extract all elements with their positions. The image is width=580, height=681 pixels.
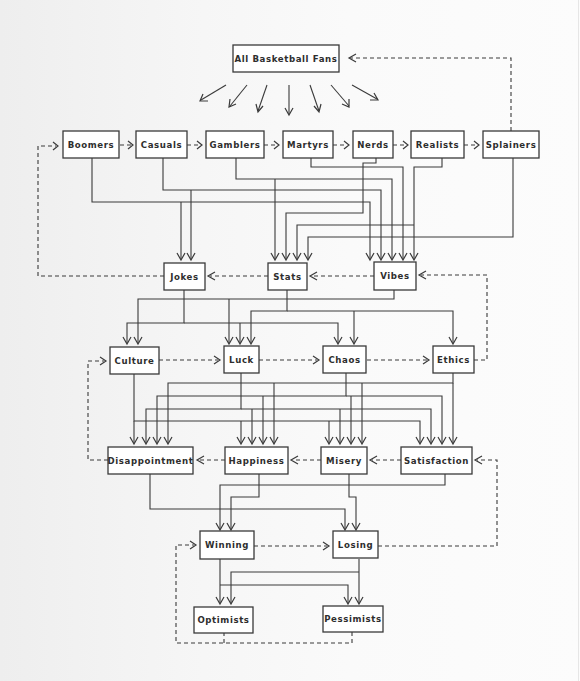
node-label: All Basketball Fans bbox=[234, 54, 337, 64]
node-label: Realists bbox=[416, 140, 459, 150]
node-label: Misery bbox=[326, 456, 362, 466]
node-misery: Misery bbox=[321, 447, 367, 474]
node-boomers: Boomers bbox=[63, 131, 119, 158]
fanout-arrow-icon bbox=[229, 85, 247, 107]
node-gamblers: Gamblers bbox=[206, 131, 264, 158]
wires-row2-to-row3 bbox=[127, 290, 453, 343]
node-martyrs: Martyrs bbox=[283, 131, 333, 158]
node-all-basketball-fans: All Basketball Fans bbox=[233, 45, 339, 72]
node-luck: Luck bbox=[224, 346, 259, 373]
node-ethics: Ethics bbox=[433, 346, 474, 373]
wires-row1-to-row2 bbox=[92, 155, 513, 259]
node-splainers: Splainers bbox=[483, 131, 539, 158]
node-label: Boomers bbox=[68, 140, 115, 150]
node-winning: Winning bbox=[200, 531, 254, 559]
node-nerds: Nerds bbox=[353, 131, 393, 158]
node-realists: Realists bbox=[411, 131, 464, 158]
arrowheads-row4 bbox=[130, 437, 457, 444]
node-label: Winning bbox=[205, 540, 249, 550]
arrowheads-row6 bbox=[216, 597, 363, 604]
node-culture: Culture bbox=[110, 347, 159, 374]
node-vibes: Vibes bbox=[374, 262, 416, 290]
fanout-arrow-icon bbox=[256, 85, 267, 112]
node-label: Luck bbox=[229, 355, 254, 365]
node-label: Nerds bbox=[357, 140, 389, 150]
fanout-arrow-icon bbox=[310, 85, 321, 112]
fanout-arrow-icon bbox=[352, 85, 378, 100]
node-label: Losing bbox=[338, 540, 373, 550]
node-jokes: Jokes bbox=[164, 263, 205, 290]
fanout-arrow-icon bbox=[285, 85, 293, 115]
node-label: Jokes bbox=[169, 272, 199, 282]
node-satisfaction: Satisfaction bbox=[401, 447, 472, 474]
node-pessimists: Pessimists bbox=[323, 606, 383, 632]
wires-row5-to-row6 bbox=[220, 559, 359, 603]
arrowheads-row3 bbox=[123, 337, 457, 344]
node-label: Happiness bbox=[229, 456, 285, 466]
flowchart: All Basketball Fans Boomers Casuals Gamb… bbox=[0, 0, 580, 681]
node-happiness: Happiness bbox=[225, 447, 288, 474]
node-label: Satisfaction bbox=[404, 456, 469, 466]
node-label: Culture bbox=[115, 356, 155, 366]
node-label: Stats bbox=[273, 272, 301, 282]
node-optimists: Optimists bbox=[194, 607, 253, 633]
node-disappointment: Disappointment bbox=[108, 447, 194, 474]
node-label: Casuals bbox=[141, 140, 182, 150]
node-label: Gamblers bbox=[210, 140, 261, 150]
node-label: Vibes bbox=[380, 271, 410, 281]
fanout-arrows bbox=[200, 85, 378, 115]
fanout-arrow-icon bbox=[200, 85, 226, 101]
wires-row3-to-row4 bbox=[134, 373, 453, 443]
node-label: Chaos bbox=[328, 355, 360, 365]
node-losing: Losing bbox=[333, 531, 378, 558]
fanout-arrow-icon bbox=[331, 85, 349, 107]
node-stats: Stats bbox=[268, 263, 307, 290]
node-label: Splainers bbox=[486, 140, 537, 150]
node-label: Disappointment bbox=[108, 456, 194, 466]
node-chaos: Chaos bbox=[323, 346, 366, 373]
node-casuals: Casuals bbox=[136, 131, 187, 158]
node-label: Pessimists bbox=[324, 614, 382, 624]
node-label: Martyrs bbox=[287, 140, 329, 150]
node-label: Ethics bbox=[437, 355, 470, 365]
arrowheads-row5 bbox=[216, 523, 360, 530]
node-label: Optimists bbox=[197, 615, 249, 625]
wires-row4-to-row5 bbox=[150, 473, 445, 529]
